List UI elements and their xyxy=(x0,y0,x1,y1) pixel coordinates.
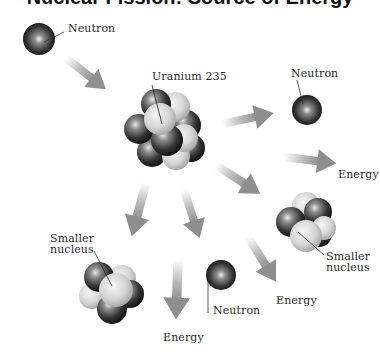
arrow-energy-bottom-mid xyxy=(238,231,286,288)
fission-diagram: Nuclear Fission: Source of Energy xyxy=(0,0,380,363)
label-uranium-235: Uranium 235 xyxy=(152,71,227,83)
neutron-top-right xyxy=(292,95,322,125)
label-smaller-nucleus-left-2: nucleus xyxy=(50,244,94,256)
arrow-to-left-nucleus xyxy=(120,180,158,240)
uranium-nucleus xyxy=(124,89,205,170)
arrow-to-neutron xyxy=(220,101,277,135)
arrow-energy-right xyxy=(283,145,338,175)
smaller-nucleus-left xyxy=(79,262,144,324)
arrow-energy-bottom-left xyxy=(162,260,191,320)
label-energy-bottom-mid: Energy xyxy=(276,295,317,307)
label-neutron-top-right: Neutron xyxy=(291,68,338,80)
label-energy-right: Energy xyxy=(338,169,379,181)
label-smaller-nucleus-right-2: nucleus xyxy=(326,262,370,274)
diagram-graphics xyxy=(0,0,380,363)
label-neutron-bottom: Neutron xyxy=(213,305,260,317)
smaller-nucleus-right xyxy=(276,192,336,252)
neutron-bottom xyxy=(206,260,236,290)
arrow-incoming xyxy=(59,49,113,98)
arrow-to-right-nucleus xyxy=(209,155,266,204)
label-incoming-neutron: Neutron xyxy=(68,23,115,35)
label-energy-bottom-left: Energy xyxy=(163,332,204,344)
arrow-to-bottom-neutron xyxy=(173,186,211,241)
